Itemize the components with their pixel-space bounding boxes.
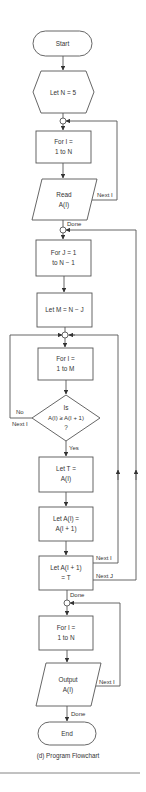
for-i-read-box: For I = 1 to N — [36, 131, 91, 163]
no-label: No — [16, 409, 24, 415]
decision-line1: Is — [64, 404, 69, 411]
for-j-line1: For J = 1 — [51, 249, 77, 256]
done-sort-label: Done — [70, 592, 85, 598]
for-i-out-box: For I = 1 to N — [39, 616, 93, 650]
compare-decision-diamond: Is A(I) ≥ A(I + 1) ? — [32, 395, 100, 441]
let-ai1-line1: Let A(I + 1) — [50, 564, 81, 572]
next-i-read-label: Next I — [97, 192, 113, 198]
let-t-line2: A(I) — [61, 475, 71, 483]
let-m-label: Let M = N − J — [45, 306, 83, 313]
figure-caption: (d) Program Flowchart — [37, 752, 100, 760]
output-line1: Output — [58, 676, 77, 684]
output-line2: A(I) — [63, 686, 73, 694]
decision-line3: ? — [64, 424, 68, 431]
let-ai1-box: Let A(I + 1) = T — [39, 556, 93, 590]
decision-line2: A(I) ≥ A(I + 1) — [48, 415, 84, 421]
for-i-m-line2: 1 to M — [57, 365, 75, 372]
for-i-out-line2: 1 to N — [57, 634, 74, 641]
let-t-box: Let T = A(I) — [39, 457, 93, 492]
connector-circle — [62, 332, 68, 338]
let-ai-box: Let A(I) = A(I + 1) — [39, 507, 93, 541]
next-i-output-label: Next I — [99, 679, 115, 685]
for-i-m-line1: For I = — [56, 355, 75, 362]
read-line1: Read — [56, 191, 72, 198]
end-label: End — [61, 730, 73, 737]
let-m-box: Let M = N − J — [37, 293, 92, 327]
output-parallelogram: Output A(I) — [36, 663, 101, 706]
for-i-out-line1: For I = — [57, 624, 76, 631]
connector-circle — [64, 600, 70, 606]
start-label: Start — [56, 40, 70, 47]
next-i-decision-label: Next I — [12, 421, 28, 427]
read-line2: A(I) — [59, 201, 69, 209]
for-i-read-line1: For I = — [54, 138, 73, 145]
let-ai-line1: Let A(I) = — [53, 515, 79, 523]
for-i-read-line2: 1 to N — [55, 148, 72, 155]
for-j-box: For J = 1 to N − 1 — [36, 240, 91, 276]
next-i-swap-label: Next I — [96, 555, 112, 561]
read-input-parallelogram: Read A(I) — [32, 179, 97, 220]
let-ai1-line2: = T — [61, 574, 70, 581]
done-output-label: Done — [71, 711, 86, 717]
next-j-label: Next J — [96, 573, 113, 579]
for-i-m-box: For I = 1 to M — [38, 348, 93, 380]
start-terminal: Start — [33, 31, 92, 56]
let-n-hexagon: Let N = 5 — [33, 71, 94, 113]
done-read-label: Done — [67, 221, 82, 227]
yes-label: Yes — [69, 445, 79, 451]
end-terminal: End — [38, 722, 96, 745]
let-n-label: Let N = 5 — [50, 89, 77, 96]
let-t-line1: Let T = — [56, 465, 76, 472]
for-j-line2: to N − 1 — [52, 259, 75, 266]
program-flowchart: Start Let N = 5 For I = 1 to N Read A(I)… — [0, 0, 146, 792]
let-ai-line2: A(I + 1) — [55, 525, 76, 533]
connector-circle — [60, 227, 66, 233]
connector-circle — [60, 118, 66, 124]
